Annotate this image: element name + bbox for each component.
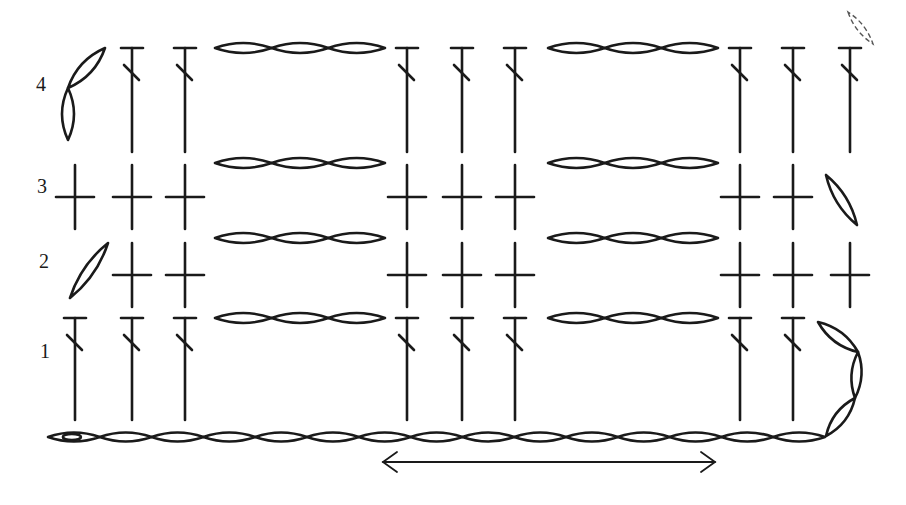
turning-chain-icon [818, 322, 858, 352]
row-label-4: 4 [36, 74, 46, 94]
turning-chain-icon [70, 243, 108, 298]
turning-chain-icon [851, 352, 861, 398]
chain-stitch-icon [215, 233, 272, 243]
chain-stitch-icon [272, 158, 329, 168]
chain-stitch-icon [548, 158, 605, 168]
chain-stitch-icon [605, 233, 662, 243]
foundation-chain-icon [670, 433, 722, 442]
foundation-chain-icon [566, 433, 618, 442]
chain-stitch-icon [272, 233, 329, 243]
foundation-chain-icon [152, 433, 204, 442]
chain-stitch-icon [215, 43, 272, 53]
foundation-chain-icon [203, 433, 255, 442]
foundation-chain-icon [514, 433, 566, 442]
chain-stitch-icon [215, 158, 272, 168]
foundation-chain-icon [773, 433, 825, 442]
turning-chain-icon [62, 88, 74, 140]
foundation-chain-icon [462, 433, 514, 442]
turning-chain-icon [826, 398, 855, 436]
chain-stitch-icon [661, 43, 718, 53]
row-label-1: 1 [40, 341, 50, 361]
chain-stitch-icon [328, 43, 385, 53]
foundation-chain-icon [618, 433, 670, 442]
foundation-chain-icon [255, 433, 307, 442]
chain-stitch-icon [215, 313, 272, 323]
slip-knot-icon [63, 434, 81, 440]
chain-stitch-icon [605, 158, 662, 168]
turning-chain-icon [826, 175, 857, 225]
chain-stitch-icon [661, 313, 718, 323]
turning-chain-icon [68, 48, 105, 88]
foundation-chain-icon [359, 433, 411, 442]
chain-stitch-icon [661, 158, 718, 168]
row-label-2: 2 [39, 251, 49, 271]
chain-stitch-icon [328, 158, 385, 168]
stitch-diagram [0, 0, 906, 505]
chain-stitch-icon [548, 313, 605, 323]
chain-stitch-icon [605, 313, 662, 323]
chain-stitch-icon [605, 43, 662, 53]
chain-stitch-icon [661, 233, 718, 243]
crochet-chart: 4321 [0, 0, 906, 505]
chain-stitch-icon [548, 233, 605, 243]
foundation-chain-icon [721, 433, 773, 442]
foundation-chain-icon [100, 433, 152, 442]
chain-stitch-icon [328, 313, 385, 323]
faded-chain-icon [848, 12, 873, 44]
row-label-3: 3 [37, 176, 47, 196]
chain-stitch-icon [548, 43, 605, 53]
chain-stitch-icon [272, 43, 329, 53]
chain-stitch-icon [272, 313, 329, 323]
foundation-chain-icon [307, 433, 359, 442]
chain-stitch-icon [328, 233, 385, 243]
foundation-chain-icon [411, 433, 463, 442]
